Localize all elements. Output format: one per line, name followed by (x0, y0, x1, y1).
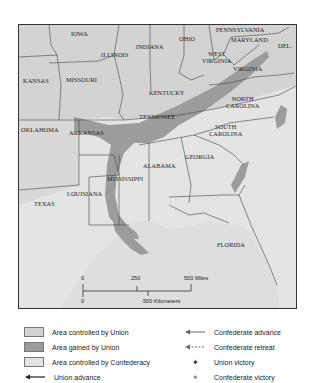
confederate-victory-icon: ✦ (184, 372, 206, 382)
legend-item-gained-area: Area gained by Union (24, 341, 119, 353)
legend-item-union-advance: Union advance (24, 371, 101, 383)
legend-item-confederate-victory: ✦ Confederate victory (184, 371, 275, 383)
confederacy-area-swatch (24, 357, 44, 367)
scale-km-0: 0 (81, 298, 84, 304)
legend-item-union-area: Area controlled by Union (24, 326, 129, 338)
scale-miles-250: 250 (131, 275, 140, 281)
legend-item-confederate-retreat: Confederate retreat (184, 341, 275, 353)
map-legend: Area controlled by Union Area gained by … (24, 326, 309, 381)
scale-km-500: 500 Kilometers (143, 298, 180, 304)
legend-item-confederate-advance: Confederate advance (184, 326, 281, 338)
union-advance-arrow-icon (24, 372, 46, 382)
civil-war-map: IOWA ILLINOIS INDIANA OHIO PENNSYLVANIA … (18, 24, 297, 309)
confederate-advance-arrow-icon (184, 327, 206, 337)
gained-area-swatch (24, 342, 44, 352)
union-area-swatch (24, 327, 44, 337)
scale-miles-0: 0 (81, 275, 84, 281)
confederate-retreat-arrow-icon (184, 342, 206, 352)
scale-miles-500: 500 Miles (184, 275, 208, 281)
scale-bar: 0 250 500 Miles 0 500 Kilometers (19, 25, 297, 309)
legend-item-union-victory: ✦ Union victory (184, 356, 254, 368)
legend-item-confederacy-area: Area controlled by Confederacy (24, 356, 150, 368)
union-victory-icon: ✦ (184, 357, 206, 367)
